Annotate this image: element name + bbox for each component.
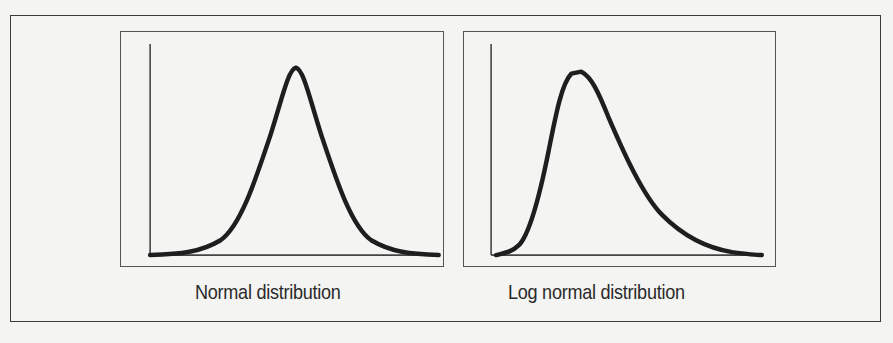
normal-curve — [150, 68, 439, 255]
normal-distribution-panel — [120, 31, 444, 267]
lognormal-distribution-plot — [464, 32, 775, 266]
normal-distribution-plot — [121, 32, 443, 266]
lognormal-distribution-caption: Log normal distribution — [508, 280, 685, 304]
lognormal-distribution-panel — [463, 31, 776, 267]
normal-distribution-caption: Normal distribution — [195, 280, 341, 304]
lognormal-curve — [496, 72, 762, 255]
